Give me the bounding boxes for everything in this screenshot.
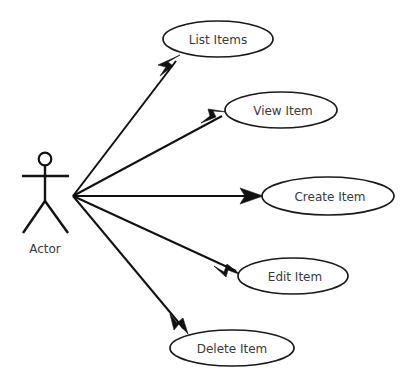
use-case-label: Delete Item: [197, 342, 268, 356]
arrowhead-icon: [170, 314, 188, 334]
use-case-group: List Items View Item Create Item Edit It…: [163, 21, 394, 366]
association-line: [73, 116, 222, 196]
association-actor-to-edit-item[interactable]: [73, 196, 241, 277]
arrowhead-icon: [214, 264, 241, 277]
use-case-create-item[interactable]: Create Item: [262, 177, 394, 215]
use-case-label: Edit Item: [268, 270, 322, 284]
association-actor-to-delete-item[interactable]: [73, 196, 188, 334]
use-case-diagram: Actor List Items View Item Create Item E…: [0, 0, 405, 390]
association-line: [73, 196, 184, 329]
actor-leg-right-icon: [45, 201, 68, 233]
actor-leg-left-icon: [23, 201, 45, 233]
association-actor-to-view-item[interactable]: [73, 109, 227, 196]
use-case-view-item[interactable]: View Item: [225, 92, 337, 128]
use-case-diagram-canvas: Actor List Items View Item Create Item E…: [0, 0, 405, 390]
arrowhead-icon: [158, 55, 180, 76]
use-case-label: List Items: [189, 33, 247, 47]
use-case-delete-item[interactable]: Delete Item: [170, 330, 294, 366]
association-group: [73, 55, 263, 334]
use-case-label: View Item: [253, 104, 313, 118]
use-case-edit-item[interactable]: Edit Item: [238, 258, 348, 294]
use-case-list-items[interactable]: List Items: [163, 21, 273, 57]
actor[interactable]: Actor: [22, 153, 69, 256]
association-line: [73, 61, 176, 196]
use-case-label: Create Item: [294, 190, 365, 204]
actor-label: Actor: [29, 242, 61, 256]
association-line: [73, 196, 236, 271]
association-actor-to-list-items[interactable]: [73, 55, 180, 196]
association-actor-to-create-item[interactable]: [73, 188, 263, 204]
actor-head-icon: [39, 153, 52, 166]
